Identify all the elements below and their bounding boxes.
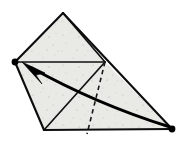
edge-bottom bbox=[44, 129, 172, 130]
origami-fold-diagram bbox=[0, 0, 189, 141]
vertex-dot-right bbox=[169, 126, 176, 133]
vertex-dot-left bbox=[12, 59, 19, 66]
fold-diagram-canvas bbox=[0, 0, 189, 141]
